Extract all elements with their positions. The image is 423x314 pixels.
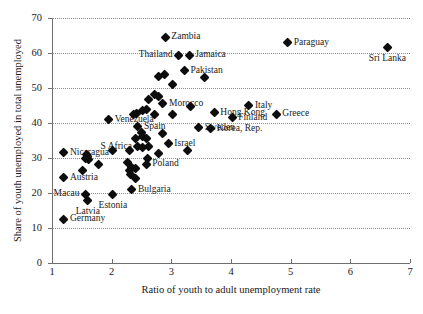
x-tick-mark: [350, 259, 351, 263]
y-tick-label: 40: [14, 118, 42, 128]
gridline: [52, 228, 410, 229]
y-tick-label: 0: [14, 258, 42, 268]
diamond-marker: [209, 107, 219, 117]
point-label: Paraguay: [294, 37, 329, 47]
diamond-marker: [108, 190, 118, 200]
x-tick-mark: [231, 259, 232, 263]
diamond-marker: [59, 214, 69, 224]
x-tick-label: 2: [101, 266, 123, 277]
scatter-chart: Share of youth unemployed in total unemp…: [0, 0, 423, 314]
gridline: [52, 88, 410, 89]
x-axis-title: Ratio of youth to adult unemployment rat…: [52, 284, 410, 295]
y-tick-mark: [48, 53, 52, 54]
x-tick-label: 1: [41, 266, 63, 277]
y-tick-label: 70: [14, 13, 42, 23]
diamond-marker: [283, 37, 293, 47]
x-tick-mark: [112, 259, 113, 263]
diamond-marker: [184, 50, 194, 60]
x-tick-mark: [171, 259, 172, 263]
y-tick-label: 50: [14, 83, 42, 93]
y-tick-label: 60: [14, 48, 42, 58]
x-tick-mark: [291, 259, 292, 263]
diamond-marker: [382, 43, 392, 53]
x-tick-label: 6: [339, 266, 361, 277]
y-tick-mark: [48, 263, 52, 264]
y-tick-mark: [48, 88, 52, 89]
y-tick-mark: [48, 228, 52, 229]
plot-area: ZambiaParaguaySri LankaThailandJamaicaPa…: [52, 18, 410, 263]
diamond-marker: [167, 79, 177, 89]
gridline: [52, 53, 410, 54]
point-label: Thailand: [139, 49, 173, 59]
diamond-marker: [167, 110, 177, 120]
point-label: Estonia: [99, 200, 128, 210]
x-tick-label: 7: [399, 266, 421, 277]
diamond-marker: [163, 139, 173, 149]
point-label: Bulgaria: [138, 184, 171, 194]
point-label: Korea, Rep.: [217, 123, 263, 133]
gridline: [52, 18, 410, 19]
diamond-marker: [158, 128, 168, 138]
point-label: Pakistan: [190, 65, 222, 75]
x-tick-mark: [52, 259, 53, 263]
point-label: Sri Lanka: [369, 53, 406, 63]
diamond-marker: [59, 173, 69, 183]
diamond-marker: [173, 50, 183, 60]
point-label: Germany: [70, 213, 105, 223]
diamond-marker: [127, 184, 137, 194]
diamond-marker: [93, 160, 103, 170]
point-label: Greece: [282, 108, 309, 118]
diamond-marker: [104, 115, 114, 125]
y-tick-mark: [48, 18, 52, 19]
x-tick-label: 3: [160, 266, 182, 277]
diamond-marker: [271, 109, 281, 119]
y-tick-label: 20: [14, 188, 42, 198]
y-tick-label: 30: [14, 153, 42, 163]
point-label: Zambia: [171, 31, 200, 41]
diamond-marker: [179, 65, 189, 75]
diamond-marker: [158, 99, 168, 109]
point-label: Macau: [54, 188, 80, 198]
gridline: [52, 193, 410, 194]
x-tick-label: 5: [280, 266, 302, 277]
point-label: Jamaica: [195, 49, 226, 59]
point-label: Poland: [152, 158, 178, 168]
diamond-marker: [194, 123, 204, 133]
x-tick-label: 4: [220, 266, 242, 277]
gridline: [52, 158, 410, 159]
diamond-marker: [83, 196, 93, 206]
y-tick-mark: [48, 123, 52, 124]
point-label: Austria: [70, 172, 98, 182]
point-label: Finland: [238, 112, 267, 122]
y-tick-mark: [48, 158, 52, 159]
diamond-marker: [160, 32, 170, 42]
x-tick-mark: [410, 259, 411, 263]
diamond-marker: [59, 148, 69, 158]
y-tick-label: 10: [14, 223, 42, 233]
x-axis-line: [52, 263, 410, 264]
y-tick-mark: [48, 193, 52, 194]
